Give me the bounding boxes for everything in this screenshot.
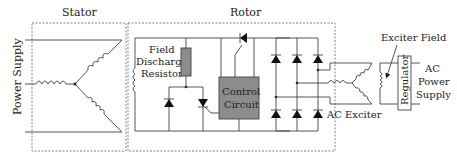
power-supply-label: Power Supply	[11, 38, 24, 115]
stator-coil-upper	[88, 40, 122, 70]
ac-exciter-label: AC Exciter	[326, 109, 382, 120]
ac-power-supply-label-1: AC	[424, 63, 440, 74]
wye-junction	[74, 83, 77, 86]
ac-power-supply-label-2: Power	[418, 76, 450, 87]
bridge-rectifier	[271, 38, 323, 131]
exciter-coil-middle	[328, 81, 352, 84]
resistor-label-1: Field	[149, 44, 175, 55]
control-circuit-label-1: Control	[222, 86, 260, 97]
excitation-system-diagram: Stator Power Supply Rotor Field Discharg…	[0, 0, 457, 159]
rotor-field-winding	[133, 68, 135, 92]
control-circuit-label-2: Circuit	[224, 99, 259, 110]
discharge-thyristor	[198, 99, 208, 107]
resistor-label-2: Discharge	[136, 56, 188, 67]
stator-coil-middle	[36, 81, 75, 84]
resistor-label-3: Resistor	[141, 68, 183, 79]
stator-label: Stator	[62, 6, 98, 19]
stator-section: Stator Power Supply	[11, 6, 126, 151]
exciter-field-section: Exciter Field Regulator AC Power Supply	[380, 32, 451, 110]
rotor-section: Rotor Field Discharge Resistor Cont	[128, 6, 382, 151]
regulator-label: Regulator	[399, 55, 410, 105]
discharge-diode	[164, 99, 174, 107]
rotor-label: Rotor	[230, 6, 262, 19]
control-circuit-box	[219, 77, 259, 119]
exciter-coil-upper	[356, 63, 372, 79]
main-thyristor	[240, 33, 247, 43]
exciter-coil-lower	[356, 88, 372, 104]
exciter-field-winding	[380, 72, 382, 88]
exciter-field-label: Exciter Field	[381, 32, 447, 43]
stator-coil-lower	[88, 98, 122, 133]
ac-power-supply-label-3: Supply	[416, 89, 451, 100]
field-discharge-resistor	[181, 48, 191, 76]
